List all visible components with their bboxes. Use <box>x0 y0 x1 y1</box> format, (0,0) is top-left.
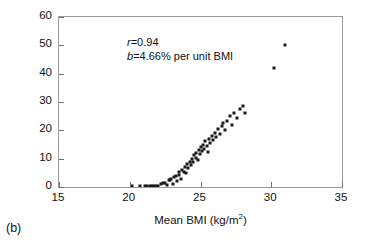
x-axis-tick-label: 35 <box>321 192 361 204</box>
scatter-plot-figure: Prevalence (%) of overweight r=0.94 b=4.… <box>0 0 366 248</box>
x-axis-tick <box>342 182 343 187</box>
y-axis-tick-label: 50 <box>26 38 52 50</box>
y-axis-tick <box>59 102 64 103</box>
y-axis-tick-label: 10 <box>26 152 52 164</box>
y-axis-tick <box>59 74 64 75</box>
data-point <box>198 153 201 156</box>
x-axis-label-suffix: ) <box>243 214 247 226</box>
data-point <box>213 131 216 134</box>
y-axis-tick <box>59 17 64 18</box>
data-point <box>210 135 213 138</box>
data-point <box>187 167 190 170</box>
data-point <box>212 138 215 141</box>
y-axis-tick-label: 40 <box>26 67 52 79</box>
data-point <box>236 116 239 119</box>
data-point <box>219 132 222 135</box>
data-point <box>207 137 210 140</box>
x-axis-tick-label: 20 <box>109 192 149 204</box>
y-axis-tick <box>59 187 64 188</box>
data-point <box>233 111 236 114</box>
y-axis-tick-label: 20 <box>26 123 52 135</box>
x-axis-label-main: Mean BMI (kg/m <box>154 214 238 226</box>
data-point <box>217 128 220 131</box>
slope-value: =4.66% per unit BMI <box>133 50 233 62</box>
panel-label: (b) <box>6 221 21 235</box>
x-axis-tick <box>271 182 272 187</box>
data-point <box>139 185 142 187</box>
data-point <box>130 184 133 187</box>
y-axis-tick <box>59 45 64 46</box>
data-point <box>192 161 195 164</box>
y-axis-tick <box>59 159 64 160</box>
data-point <box>241 104 244 107</box>
x-axis-label: Mean BMI (kg/m2) <box>58 214 343 226</box>
data-point <box>284 43 287 46</box>
x-axis-tick <box>201 182 202 187</box>
y-axis-tick-label: 60 <box>26 10 52 22</box>
correlation-annotation: r=0.94 <box>127 36 233 50</box>
data-point <box>224 129 227 132</box>
x-axis-tick-label: 15 <box>38 192 78 204</box>
data-point <box>179 177 182 180</box>
data-point <box>244 112 247 115</box>
x-axis-tick <box>59 182 60 187</box>
data-point <box>196 158 199 161</box>
data-point <box>273 67 276 70</box>
data-point <box>215 136 218 139</box>
x-axis-tick <box>130 182 131 187</box>
data-point <box>188 160 191 163</box>
data-point <box>183 166 186 169</box>
data-point <box>228 115 231 118</box>
statistics-annotation: r=0.94 b=4.66% per unit BMI <box>127 36 233 63</box>
data-point <box>178 173 181 176</box>
data-point <box>206 151 209 154</box>
data-point <box>186 163 189 166</box>
data-point <box>222 121 225 124</box>
correlation-value: =0.94 <box>131 36 159 48</box>
data-point <box>209 142 212 145</box>
x-axis-tick-label: 25 <box>180 192 220 204</box>
data-point <box>226 119 229 122</box>
y-axis-tick-label: 0 <box>26 180 52 192</box>
data-point <box>189 164 192 167</box>
plot-area: r=0.94 b=4.66% per unit BMI <box>58 16 343 188</box>
y-axis-tick <box>59 130 64 131</box>
data-point <box>171 182 174 185</box>
data-point <box>204 140 207 143</box>
data-point <box>220 124 223 127</box>
x-axis-tick-label: 30 <box>250 192 290 204</box>
data-point <box>176 180 179 183</box>
slope-annotation: b=4.66% per unit BMI <box>127 50 233 64</box>
y-axis-tick-label: 30 <box>26 95 52 107</box>
data-point <box>239 108 242 111</box>
data-point <box>184 172 187 175</box>
data-point <box>165 184 168 187</box>
data-point <box>230 123 233 126</box>
